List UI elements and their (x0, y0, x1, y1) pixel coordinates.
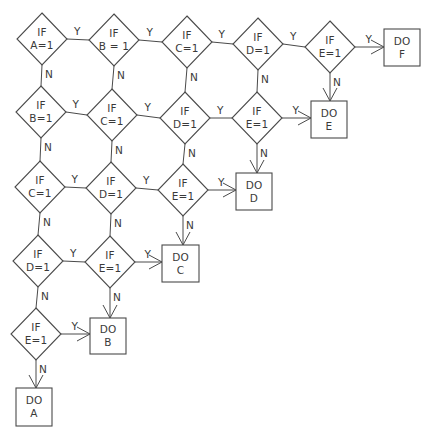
yes-label-r3c: Y (218, 176, 224, 188)
no-edge-r3a (38, 213, 40, 235)
decision-diamond-r2a (16, 86, 66, 138)
yes-label-r4a: Y (70, 247, 76, 259)
no-label-r3b: N (114, 217, 122, 229)
yes-label-r3b: Y (143, 174, 149, 186)
action-box-doD (236, 173, 272, 210)
decision-diamond-r3c (158, 164, 208, 216)
action-box-doC (162, 245, 199, 282)
flowchart-diagram: IFA=1IFB = 1IFC=1IFD=1IFE=1IFB=1IFC=1IFD… (0, 0, 435, 439)
yes-edge-r3a (65, 187, 86, 188)
yes-label-r3a: Y (72, 173, 78, 185)
no-label-r5a: N (39, 363, 47, 375)
yes-edge-r1d (283, 44, 305, 47)
decision-diamond-r5a (11, 308, 61, 360)
yes-edge-r2b (137, 115, 160, 118)
decision-diamond-r3a (15, 161, 65, 213)
no-label-r1b: N (117, 69, 125, 81)
no-edge-r1d (257, 70, 258, 92)
yes-label-r4b: Y (145, 248, 151, 260)
action-box-doB (90, 318, 126, 354)
decision-diamond-r1a (17, 13, 67, 65)
decision-diamond-r4a (13, 235, 63, 287)
decision-diamond-r1d (233, 18, 283, 70)
no-label-r2b: N (115, 144, 123, 156)
no-label-r3a: N (43, 216, 51, 228)
no-label-r4a: N (41, 290, 49, 302)
no-label-r3c: N (186, 219, 194, 231)
no-edge-r4a (36, 287, 38, 308)
no-label-r4b: N (113, 291, 121, 303)
no-edge-r2c (183, 144, 185, 164)
yes-label-r1b: Y (147, 26, 153, 38)
decision-diamond-r2c (160, 92, 210, 144)
no-label-r2c: N (188, 147, 196, 159)
yes-label-r2c: Y (217, 104, 223, 116)
yes-edge-r1c (212, 42, 233, 44)
no-edge-r1b (112, 66, 114, 89)
yes-label-r1d: Y (290, 30, 296, 42)
yes-edge-r3b (136, 188, 158, 190)
no-edge-r2b (111, 141, 112, 162)
no-label-r1c: N (190, 71, 198, 83)
yes-edge-r2a (66, 112, 87, 115)
yes-edge-r4a (63, 261, 85, 262)
yes-label-r1c: Y (219, 28, 225, 40)
decision-diamond-r1b (89, 14, 139, 66)
no-edge-r2a (40, 138, 41, 161)
no-edge-r1a (41, 65, 42, 86)
yes-label-r2a: Y (73, 98, 79, 110)
action-box-doE (311, 101, 347, 138)
flowchart-lines (0, 0, 435, 439)
action-box-doA (16, 388, 52, 426)
yes-label-r2b: Y (145, 101, 151, 113)
yes-edge-r1b (139, 40, 162, 42)
yes-label-r2d: Y (293, 104, 299, 116)
decision-diamond-r2b (87, 89, 137, 141)
no-edge-r1c (185, 68, 187, 92)
no-label-r1a: N (45, 68, 53, 80)
decision-diamond-r1e (305, 21, 355, 73)
no-edge-r3b (110, 214, 111, 236)
yes-edge-r1a (67, 39, 89, 40)
yes-label-r1a: Y (74, 25, 80, 37)
yes-label-r5a: Y (72, 320, 78, 332)
decision-diamond-r4b (85, 236, 135, 288)
decision-diamond-r3b (86, 162, 136, 214)
yes-label-r1e: Y (366, 33, 372, 45)
decision-diamond-r2d (232, 92, 282, 144)
no-label-r2a: N (44, 141, 52, 153)
decision-diamond-r1c (162, 16, 212, 68)
action-box-doF (384, 29, 420, 66)
no-label-r2d: N (260, 147, 268, 159)
no-label-r1e: N (333, 76, 341, 88)
no-label-r1d: N (261, 73, 269, 85)
